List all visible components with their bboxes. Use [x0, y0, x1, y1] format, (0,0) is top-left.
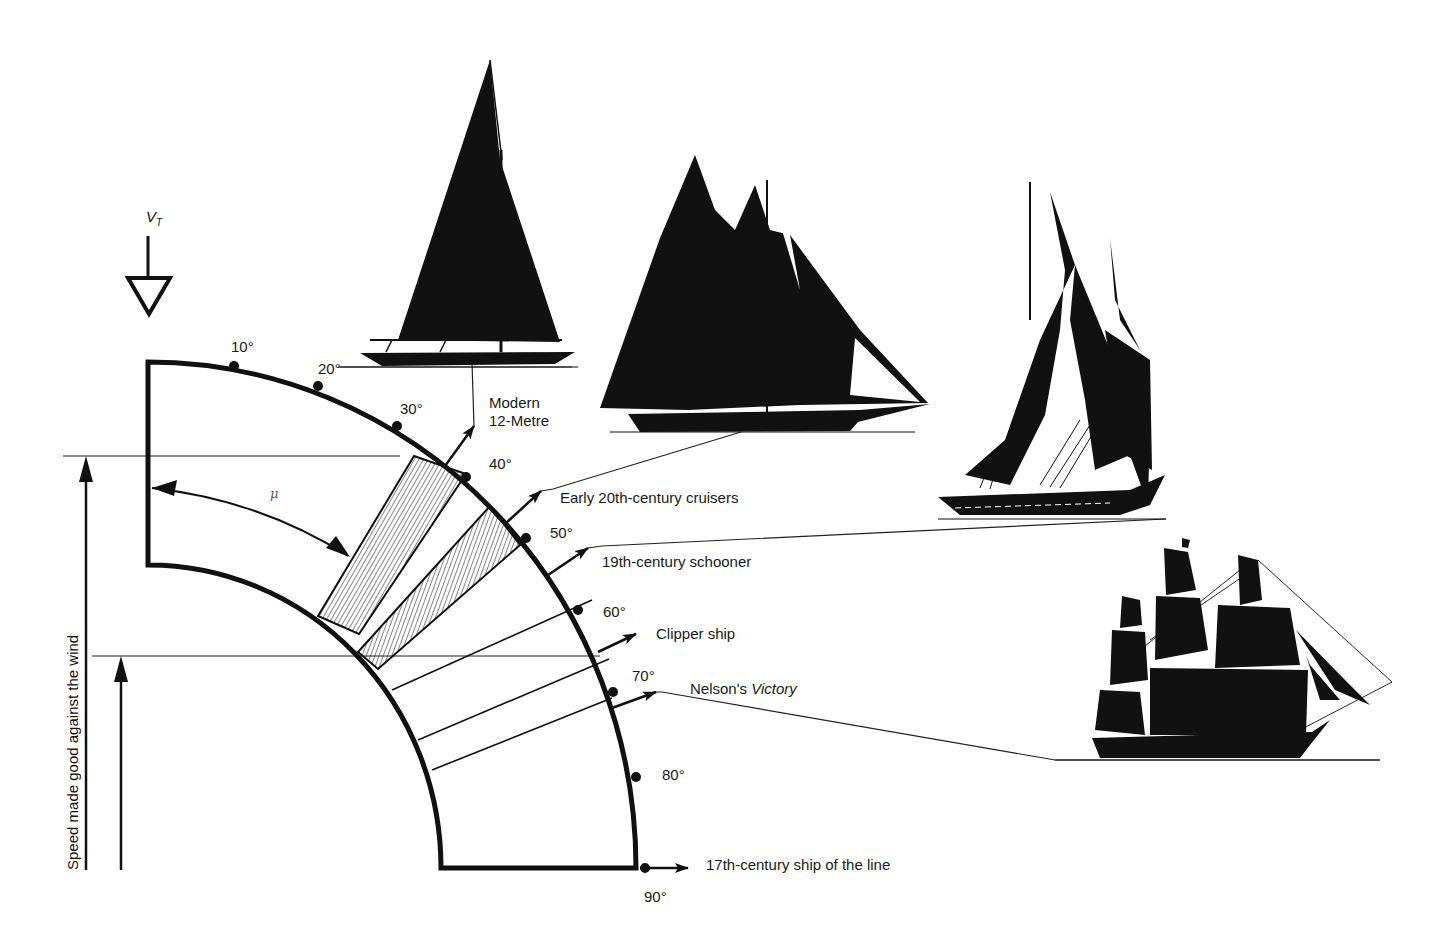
degree-dots [229, 361, 650, 873]
modern-12-metre-ship-icon [340, 60, 578, 367]
speed-made-good-arrows [63, 456, 600, 870]
mu-angle-arrow [152, 480, 350, 557]
nelsons-victory-ship-icon [1055, 538, 1392, 760]
degree-label-30: 30° [400, 400, 423, 418]
degree-label-20: 20° [318, 360, 341, 378]
degree-label-50: 50° [550, 524, 573, 542]
mu-angle-label: μ [270, 486, 278, 501]
vessel-label-17th-century-ship-of-the-line: 17th-century ship of the line [706, 856, 890, 874]
wind-direction-icon [128, 236, 170, 314]
y-axis-label: Speed made good against the wind [64, 635, 81, 870]
hatched-sectors [318, 456, 520, 669]
vessel-label-early-20th-century-cruisers: Early 20th-century cruisers [560, 489, 738, 507]
sailing-angle-diagram [0, 0, 1456, 948]
early-20th-century-cruiser-ship-icon [600, 155, 930, 432]
vessel-label-nelsons-victory: Nelson's Victory [690, 680, 797, 698]
degree-label-80: 80° [662, 766, 685, 784]
vessel-label-modern-12-metre: Modern 12-Metre [489, 394, 549, 430]
degree-label-60: 60° [603, 603, 626, 621]
degree-label-40: 40° [489, 455, 512, 473]
degree-label-90: 90° [644, 888, 667, 906]
vessel-label-19th-century-schooner: 19th-century schooner [602, 553, 751, 571]
degree-label-10: 10° [231, 338, 254, 356]
vessel-label-clipper-ship: Clipper ship [656, 625, 735, 643]
19th-century-schooner-ship-icon [938, 182, 1166, 519]
wind-velocity-label: VT [146, 208, 162, 228]
degree-label-70: 70° [632, 667, 655, 685]
